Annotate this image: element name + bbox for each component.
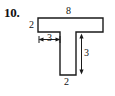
dimension-label-stem-height: 3 [84,48,89,58]
dimension-label-inner-run: 3 [47,33,52,43]
stem-height-dimension-arrow [79,34,83,75]
geometry-figure: 10. 8 2 3 3 2 [0,0,115,96]
dimension-label-top-width: 8 [66,6,71,16]
dimension-label-bottom-width: 2 [64,77,69,87]
dimension-label-left-height: 2 [29,20,34,30]
t-shape-outline [38,18,103,75]
t-shape-drawing [0,0,115,96]
